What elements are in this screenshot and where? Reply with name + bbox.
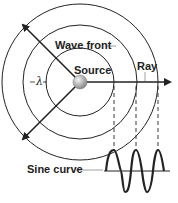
ray-arrow-downleft	[23, 82, 80, 139]
sine-curve-label: Sine curve	[27, 164, 83, 175]
wave-front-label: Wave front	[55, 40, 111, 51]
source-sphere	[73, 75, 87, 89]
lambda-label: λ	[36, 76, 43, 87]
source-label: Source	[74, 65, 111, 76]
wave-diagram: Wave front Source Ray λ Sine curve	[0, 0, 178, 203]
ray-label: Ray	[137, 61, 157, 72]
ray-arrow-upleft	[23, 25, 80, 82]
